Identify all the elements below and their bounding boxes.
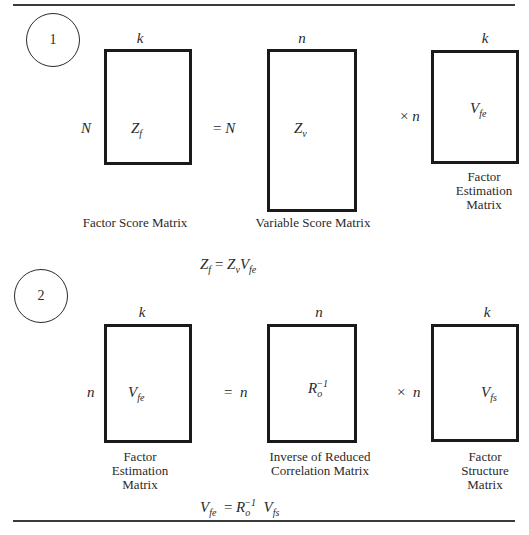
step-number: 2: [38, 288, 45, 304]
vfe-cols-label: k: [482, 30, 489, 47]
vfe-symbol: Vfe: [470, 100, 486, 119]
factor-estimation-matrix-caption: Factor Estimation Matrix: [456, 170, 512, 212]
factor-score-matrix-caption: Factor Score Matrix: [83, 216, 188, 230]
equals-n-operator: = N: [213, 120, 235, 137]
top-rule: [13, 4, 515, 6]
equation-2: Vfe = Ro−1 Vfs: [200, 497, 279, 518]
times-n-operator-2: × n: [397, 384, 420, 401]
bottom-rule: [13, 520, 515, 522]
factor-estimation-matrix-box-2: [104, 324, 192, 443]
vfe2-cols-label: k: [139, 304, 146, 321]
zv-symbol: Zv: [294, 120, 307, 139]
step-1-badge: 1: [26, 13, 80, 67]
factor-structure-matrix-box: [431, 324, 519, 442]
vfe2-rows-label: n: [87, 384, 95, 401]
step-number: 1: [50, 32, 57, 48]
vfs-symbol: Vfs: [481, 384, 497, 403]
vfe2-symbol: Vfe: [128, 384, 144, 403]
variable-score-matrix-caption: Variable Score Matrix: [256, 216, 371, 230]
factor-score-matrix-box: [104, 49, 192, 165]
r-cols-label: n: [315, 304, 323, 321]
r-inverse-symbol: Ro−1: [308, 378, 328, 399]
equals-n-operator-2: = n: [224, 384, 247, 401]
zv-cols-label: n: [298, 30, 306, 47]
step-2-badge: 2: [14, 269, 68, 323]
factor-estimation-matrix-caption-2: Factor Estimation Matrix: [112, 450, 168, 492]
times-n-operator: × n: [400, 108, 420, 125]
zf-cols-label: k: [137, 30, 144, 47]
factor-structure-matrix-caption: Factor Structure Matrix: [461, 450, 509, 492]
equation-1: Zf = ZvVfe: [200, 256, 256, 275]
inverse-reduced-correlation-matrix-caption: Inverse of Reduced Correlation Matrix: [269, 450, 370, 478]
vfs-cols-label: k: [484, 304, 491, 321]
zf-symbol: Zf: [131, 120, 142, 139]
zf-rows-label: N: [81, 120, 91, 137]
variable-score-matrix-box: [267, 49, 357, 212]
